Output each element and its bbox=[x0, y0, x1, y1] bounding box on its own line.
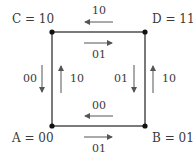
node-label-b: B = 01 bbox=[152, 132, 193, 144]
edge-label-d-to-c: 10 bbox=[92, 5, 106, 17]
node-dot-a bbox=[49, 123, 54, 128]
edge-label-a-to-c: 10 bbox=[70, 73, 84, 85]
node-label-d: D = 11 bbox=[152, 13, 193, 25]
edge-label-c-to-a: 00 bbox=[23, 73, 37, 85]
edge-label-d-to-b: 01 bbox=[114, 73, 128, 85]
edge-label-c-to-d: 01 bbox=[92, 49, 106, 61]
node-dot-c bbox=[49, 29, 54, 34]
node-label-c: C = 10 bbox=[12, 13, 54, 25]
node-label-a: A = 00 bbox=[12, 132, 54, 144]
node-dot-d bbox=[142, 29, 147, 34]
edge-label-b-to-d: 10 bbox=[162, 73, 176, 85]
node-dot-b bbox=[142, 123, 147, 128]
edge-label-b-to-a: 00 bbox=[92, 100, 106, 112]
edge-label-a-to-b: 01 bbox=[92, 143, 106, 155]
